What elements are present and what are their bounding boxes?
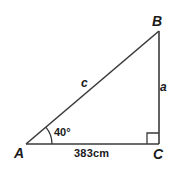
side-label-a: a xyxy=(160,81,167,93)
right-angle-marker xyxy=(147,133,159,144)
angle-label-a: 40° xyxy=(54,127,71,138)
triangle-diagram: A B C c a 40° 383cm xyxy=(0,0,182,176)
vertex-label-c: C xyxy=(153,147,163,161)
side-label-c: c xyxy=(81,77,88,89)
side-ab xyxy=(26,31,159,144)
angle-arc-a xyxy=(46,127,52,144)
vertex-label-b: B xyxy=(152,14,162,28)
vertex-label-a: A xyxy=(14,146,24,160)
side-label-ac-measure: 383cm xyxy=(74,148,109,159)
